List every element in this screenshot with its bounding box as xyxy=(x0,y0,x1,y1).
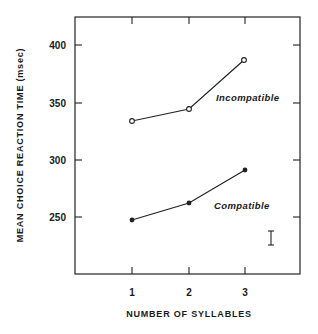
open-circle-marker xyxy=(187,107,192,112)
x-tick-label-2: 2 xyxy=(186,287,192,298)
y-tick-label-350: 350 xyxy=(49,98,66,109)
y-axis-title: MEAN CHOICE REACTION TIME (msec) xyxy=(15,48,25,243)
x-ticks-top xyxy=(132,17,245,24)
filled-circle-marker xyxy=(130,218,135,223)
y-tick-label-300: 300 xyxy=(49,155,66,166)
plot-frame xyxy=(75,17,300,274)
y-ticks-left xyxy=(75,45,82,217)
open-circle-marker xyxy=(130,119,135,124)
x-axis-title: NUMBER OF SYLLABLES xyxy=(126,309,252,319)
x-tick-label-3: 3 xyxy=(242,287,248,298)
filled-circle-marker xyxy=(187,201,192,206)
error-bar-icon xyxy=(268,231,274,245)
series-label-incompatible: Incompatible xyxy=(216,92,280,103)
chart: 400 350 300 250 1 2 3 NUMBER OF SYLLABLE… xyxy=(0,0,318,334)
series-label-compatible: Compatible xyxy=(214,200,270,211)
y-ticks-right xyxy=(293,45,300,217)
filled-circle-marker xyxy=(243,168,248,173)
series-incompatible xyxy=(130,58,247,124)
open-circle-marker xyxy=(242,58,247,63)
x-ticks-bottom xyxy=(132,267,245,274)
y-tick-label-250: 250 xyxy=(49,212,66,223)
x-tick-label-1: 1 xyxy=(129,287,135,298)
y-tick-label-400: 400 xyxy=(49,40,66,51)
series-compatible xyxy=(130,168,248,223)
